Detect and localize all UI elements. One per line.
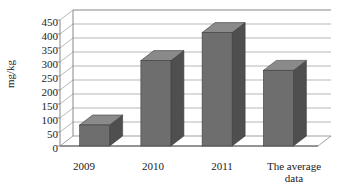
x-tick-label-line1: 2011 bbox=[211, 160, 233, 172]
bar-chart: mg/kg 450 400 350 300 250 200 150 100 50… bbox=[0, 0, 345, 193]
x-tick-label-line1: The average bbox=[267, 160, 321, 172]
x-tick-label-2009: 2009 bbox=[48, 160, 120, 172]
x-axis-tick-labels: 2009 2010 2011 The average data bbox=[0, 0, 345, 193]
x-tick-label-2010: 2010 bbox=[117, 160, 189, 172]
x-tick-label-2011: 2011 bbox=[186, 160, 258, 172]
x-tick-label-line1: 2010 bbox=[142, 160, 164, 172]
x-tick-label-line1: 2009 bbox=[73, 160, 95, 172]
x-tick-label-line2: data bbox=[285, 172, 303, 184]
x-tick-label-average: The average data bbox=[252, 160, 336, 184]
